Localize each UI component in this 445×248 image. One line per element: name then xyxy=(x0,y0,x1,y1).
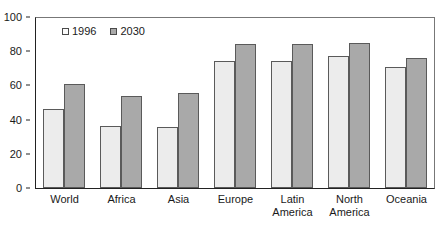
x-axis-tick-label: NorthAmerica xyxy=(321,193,378,219)
y-axis: 020406080100 xyxy=(0,17,30,189)
y-axis-tick-label: 100 xyxy=(4,12,22,23)
x-axis-tick-label-line: Latin xyxy=(264,193,321,206)
bar-group xyxy=(92,18,149,188)
bar-2030 xyxy=(292,44,313,188)
legend-item-label: 2030 xyxy=(120,26,144,37)
x-axis-tick-label: Africa xyxy=(93,193,150,206)
bars-layer xyxy=(35,18,434,188)
legend-swatch-2030-icon xyxy=(110,28,117,35)
chart-legend: 19962030 xyxy=(62,26,145,37)
bar-2030 xyxy=(349,43,370,188)
bar-group xyxy=(149,18,206,188)
legend-item-1996: 1996 xyxy=(62,26,96,37)
bar-group xyxy=(377,18,434,188)
x-axis-tick-label: Asia xyxy=(150,193,207,206)
x-axis-tick-label: LatinAmerica xyxy=(264,193,321,219)
bar-2030 xyxy=(121,96,142,188)
y-axis-tick-label: 40 xyxy=(10,114,22,125)
y-axis-tick-mark xyxy=(26,188,30,189)
y-axis-tick-mark xyxy=(26,17,30,18)
legend-swatch-1996-icon xyxy=(62,28,69,35)
x-axis-tick-label: Oceania xyxy=(378,193,435,206)
y-axis-tick-mark xyxy=(26,51,30,52)
y-axis-tick-label: 20 xyxy=(10,148,22,159)
y-axis-tick-label: 60 xyxy=(10,80,22,91)
bar-2030 xyxy=(235,44,256,188)
x-axis-tick-label: Europe xyxy=(207,193,264,206)
y-axis-tick-label: 80 xyxy=(10,46,22,57)
bar-group xyxy=(35,18,92,188)
y-axis-tick-mark xyxy=(26,153,30,154)
bar-1996 xyxy=(43,109,64,188)
x-axis-tick-label-line: North xyxy=(321,193,378,206)
bar-1996 xyxy=(157,127,178,188)
x-axis-tick-label-line: Asia xyxy=(150,193,207,206)
bar-group xyxy=(263,18,320,188)
y-axis-tick-label: 0 xyxy=(16,183,22,194)
bar-1996 xyxy=(214,61,235,188)
legend-item-2030: 2030 xyxy=(110,26,144,37)
x-axis: WorldAfricaAsiaEuropeLatinAmericaNorthAm… xyxy=(36,193,435,239)
bar-group xyxy=(206,18,263,188)
x-axis-tick-label-line: America xyxy=(321,206,378,219)
x-axis-tick-label-line: Europe xyxy=(207,193,264,206)
bar-1996 xyxy=(271,61,292,188)
y-axis-tick-mark xyxy=(26,85,30,86)
bar-1996 xyxy=(385,67,406,188)
plot-area xyxy=(35,17,435,189)
x-axis-tick-label-line: Africa xyxy=(93,193,150,206)
bar-2030 xyxy=(406,58,427,188)
bar-1996 xyxy=(328,56,349,188)
y-axis-tick-mark xyxy=(26,119,30,120)
x-axis-tick-label-line: America xyxy=(264,206,321,219)
x-axis-tick-label-line: World xyxy=(36,193,93,206)
bar-1996 xyxy=(100,126,121,188)
x-axis-tick-label-line: Oceania xyxy=(378,193,435,206)
bar-2030 xyxy=(64,84,85,188)
bar-group xyxy=(320,18,377,188)
bar-2030 xyxy=(178,93,199,188)
legend-item-label: 1996 xyxy=(72,26,96,37)
bar-chart: 020406080100 WorldAfricaAsiaEuropeLatinA… xyxy=(0,0,445,248)
x-axis-tick-label: World xyxy=(36,193,93,206)
